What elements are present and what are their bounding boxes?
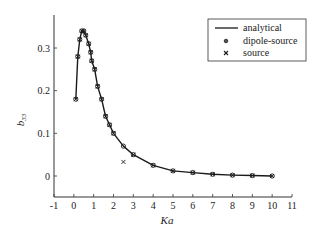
y-tick-label: 0.1 xyxy=(38,128,51,139)
x-tick-label: 5 xyxy=(171,200,176,211)
x-tick-label: 3 xyxy=(131,200,136,211)
y-tick-label: 0 xyxy=(45,171,50,182)
x-tick-label: 2 xyxy=(111,200,116,211)
x-tick-label: 0 xyxy=(71,200,76,211)
x-tick-label: 4 xyxy=(151,200,156,211)
legend-circle-marker-icon xyxy=(224,39,228,43)
x-tick-label: 6 xyxy=(190,200,195,211)
source-marker xyxy=(121,160,125,164)
legend-label-source: source xyxy=(243,47,270,58)
x-tick-label: 7 xyxy=(210,200,215,211)
legend: analytical dipole-source source xyxy=(208,19,306,61)
x-axis-label: Ka xyxy=(160,214,174,226)
x-tick-label: 11 xyxy=(287,200,297,211)
y-tick-label: 0.3 xyxy=(38,43,51,54)
b33-vs-ka-chart: -10123456789101100.10.20.3 analytical di… xyxy=(0,0,321,241)
y-tick-label: 0.2 xyxy=(38,85,51,96)
legend-label-dipole-source: dipole-source xyxy=(243,35,298,46)
x-tick-label: 10 xyxy=(267,200,277,211)
legend-label-analytical: analytical xyxy=(243,22,282,33)
svg-text:b33: b33 xyxy=(14,113,28,126)
x-tick-label: -1 xyxy=(50,200,58,211)
x-tick-label: 9 xyxy=(250,200,255,211)
y-axis-label-sub: 33 xyxy=(20,113,28,122)
x-tick-label: 8 xyxy=(230,200,235,211)
x-tick-label: 1 xyxy=(91,200,96,211)
y-axis-label: b33 xyxy=(14,113,28,126)
